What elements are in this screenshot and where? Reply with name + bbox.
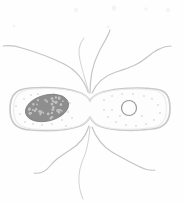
ribosome-dot: [103, 99, 105, 101]
ribosome-dot: [15, 105, 17, 107]
flagellum-bottom-center: [79, 127, 90, 199]
ribosome-dot: [30, 94, 32, 96]
ribosome-dot: [151, 98, 153, 100]
ribosome-dot: [125, 124, 127, 126]
ribosome-dot: [103, 109, 105, 111]
ribosome-dot: [145, 123, 147, 125]
ribosome-dot: [32, 123, 34, 125]
flagellum-top-center-arc: [90, 30, 110, 93]
flagellum-top-left-inner: [79, 38, 89, 93]
ribosome-dot: [69, 102, 71, 104]
ribosome-dot: [37, 93, 39, 95]
background-noise: [12, 5, 170, 28]
ribosome-dot: [141, 115, 143, 117]
ribosome-dot: [119, 115, 121, 117]
ribosome-dot: [111, 95, 113, 97]
flagellum-top-right-wavy: [92, 46, 171, 93]
ribosome-dot: [115, 121, 117, 123]
ribosome-dot: [24, 121, 26, 123]
ribosome-dot: [19, 113, 21, 115]
ribosome-dot: [121, 93, 123, 95]
ribosome-dot: [41, 124, 43, 126]
ribosome-dot: [71, 117, 73, 119]
flagella-lower-group: [34, 126, 155, 199]
ribosome-dot: [61, 119, 63, 121]
ribosome-dot: [153, 119, 155, 121]
ribosome-dot: [135, 125, 137, 127]
flagellum-bottom-right: [92, 127, 155, 170]
ribosome-dot: [65, 125, 67, 127]
flagellum-top-left-long: [3, 46, 88, 92]
ribosome-dot: [159, 112, 161, 114]
ribosome-dot: [67, 111, 69, 113]
ribosome-dot: [107, 116, 109, 118]
bacterium-diagram: [0, 0, 184, 203]
ribosome-dot: [157, 104, 159, 106]
ribosome-dot: [51, 123, 53, 125]
ribosome-dot: [132, 93, 134, 95]
ribosome-dot: [111, 109, 113, 111]
bacterium-illustration-svg: [0, 0, 184, 203]
ribosome-dot: [23, 98, 25, 100]
flagella-upper-group: [3, 30, 171, 93]
ribosome-dot: [143, 95, 145, 97]
